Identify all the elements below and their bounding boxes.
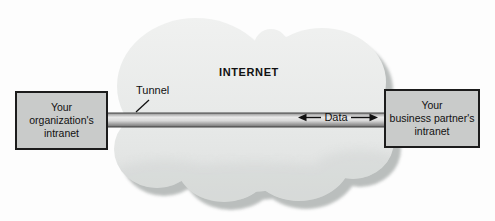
data-label: Data: [321, 111, 351, 123]
business-partner-intranet-box: Your business partner's intranet: [384, 89, 480, 148]
organization-intranet-box: Your organization's intranet: [15, 91, 108, 150]
vpn-tunnel-diagram: INTERNET Tunnel Data Your organization's…: [0, 0, 495, 221]
internet-label: INTERNET: [213, 66, 285, 78]
tunnel-label: Tunnel: [136, 84, 169, 96]
